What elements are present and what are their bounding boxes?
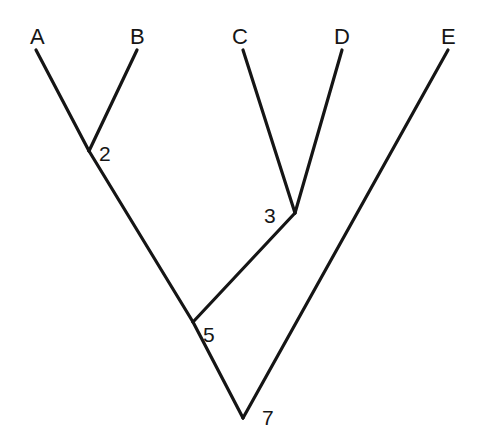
phylogenetic-tree-figure: ABCDE 2357 [0,0,478,441]
node-label-5: 5 [203,323,215,346]
branch-5-to-7 [193,322,243,418]
branch-C-to-3 [243,50,295,213]
tip-labels-group: ABCDE [30,24,456,49]
branch-D-to-3 [295,50,342,213]
node-label-7: 7 [262,406,274,429]
tip-label-d: D [334,24,350,49]
branch-2-to-5 [89,151,193,322]
branches-group [36,50,448,418]
node-labels-group: 2357 [99,142,276,429]
tip-label-a: A [30,24,45,49]
tip-label-c: C [232,24,248,49]
tip-label-e: E [441,24,456,49]
branch-3-to-5 [193,213,295,322]
branch-B-to-2 [89,50,137,151]
tip-label-b: B [130,24,145,49]
node-label-2: 2 [99,142,111,165]
node-label-3: 3 [264,204,276,227]
branch-A-to-2 [36,50,89,151]
tree-canvas: ABCDE 2357 [0,0,478,441]
